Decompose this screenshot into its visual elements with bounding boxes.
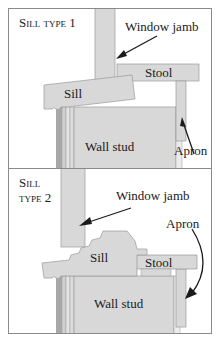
label-stool: Stool (145, 255, 173, 270)
sill-type-1-panel: Sill type 1 Window jamb Stool Sill Wall … (8, 8, 212, 170)
label-sill: Sill (90, 250, 108, 265)
label-apron: Apron (166, 216, 200, 231)
sill-type-2-diagram: Window jamb Apron Sill Stool Wall stud (9, 169, 211, 333)
apron (176, 269, 186, 327)
arrow-icon (116, 50, 127, 59)
window-jamb (61, 169, 85, 247)
label-stool: Stool (145, 65, 173, 80)
label-sill: Sill (64, 86, 82, 101)
sill-type-2-panel: Sill type 2 Window jamb Apron Sill Stool… (8, 168, 212, 334)
wall-layer (56, 107, 62, 169)
wall-layer (56, 276, 62, 333)
label-apron: Apron (174, 143, 208, 158)
sill-type-1-diagram: Window jamb Stool Sill Wall stud Apron (9, 9, 211, 169)
label-wall-stud: Wall stud (94, 296, 144, 311)
apron (176, 81, 186, 141)
label-window-jamb: Window jamb (116, 188, 190, 203)
label-wall-stud: Wall stud (85, 139, 135, 154)
wall-stud (74, 107, 176, 169)
label-window-jamb: Window jamb (125, 19, 199, 34)
sill (44, 75, 135, 110)
window-jamb (95, 9, 115, 85)
